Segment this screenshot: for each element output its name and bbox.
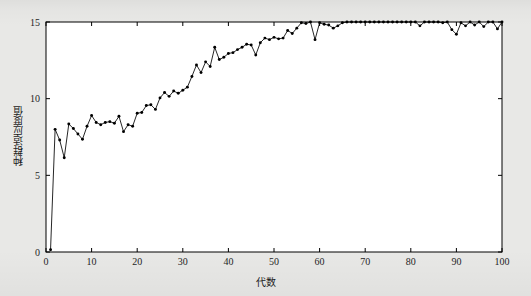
data-point [213,46,216,49]
data-point [428,21,431,24]
x-tick-label: 40 [223,256,233,267]
data-point [327,24,330,27]
data-point [464,24,467,27]
data-point [99,123,102,126]
data-point [318,21,321,24]
data-point [113,122,116,125]
x-tick-label: 100 [495,256,510,267]
data-point [368,21,371,24]
data-point [382,21,385,24]
data-point [222,56,225,59]
data-point [67,123,70,126]
data-point [177,92,180,95]
data-point [168,95,171,98]
data-point [491,21,494,24]
data-point [136,112,139,115]
data-point [209,65,212,68]
data-point [432,21,435,24]
data-point [76,132,79,135]
data-point [405,21,408,24]
data-point [460,21,463,24]
data-point [441,21,444,24]
data-point [437,21,440,24]
data-point [254,54,257,57]
x-axis-tick-labels: 0102030405060708090100 [44,256,510,267]
data-point [108,120,111,123]
data-point [341,21,344,24]
data-point [391,21,394,24]
data-point [72,127,75,130]
data-point [309,21,312,24]
x-tick-label: 30 [178,256,188,267]
x-tick-label: 90 [451,256,461,267]
data-point [355,21,358,24]
data-point [373,21,376,24]
data-point [409,21,412,24]
data-point [218,58,221,61]
x-tick-label: 60 [315,256,325,267]
data-point [469,21,472,24]
data-point [204,60,207,63]
data-point [236,48,239,51]
y-tick-label: 0 [35,247,40,258]
data-point [336,24,339,27]
y-axis-label: 种群适应度值 [10,78,28,193]
data-point [291,32,294,35]
x-tick-label: 20 [132,256,142,267]
figure-canvas: 0102030405060708090100 051015 种群适应度值 代数 [0,0,531,296]
data-point [245,43,248,46]
data-point [104,121,107,124]
data-point [140,111,143,114]
data-point [314,38,317,41]
y-axis-label-text: 种群适应度值 [14,106,24,166]
data-point [455,33,458,36]
data-point [122,130,125,133]
x-tick-label: 0 [44,256,49,267]
data-point [131,125,134,128]
data-point [478,21,481,24]
data-point [304,22,307,25]
data-point [90,114,93,117]
data-point [127,123,130,126]
data-point [250,44,253,47]
data-point [241,46,244,49]
data-point [364,21,367,24]
data-point [86,125,89,128]
data-point [263,37,266,40]
data-point [163,91,166,94]
data-point [259,41,262,44]
data-point [286,29,289,32]
data-point [181,89,184,92]
data-point [418,24,421,27]
data-point [81,138,84,141]
data-point [154,108,157,111]
data-point [159,96,162,99]
y-tick-label: 5 [35,170,40,181]
data-point [195,63,198,66]
data-point [149,103,152,106]
x-axis-label-text: 代数 [256,277,276,288]
data-point [295,27,298,30]
data-point [346,21,349,24]
data-point [95,121,98,124]
data-point [423,21,426,24]
data-point [282,37,285,40]
data-point [227,52,230,55]
data-point [446,21,449,24]
data-point [396,21,399,24]
data-point [118,115,121,118]
data-point [482,25,485,28]
data-point [200,71,203,74]
data-point [501,21,504,24]
data-point [268,38,271,41]
data-point [186,86,189,89]
x-tick-label: 10 [87,256,97,267]
data-point [63,156,66,159]
x-tick-label: 80 [406,256,416,267]
y-tick-label: 15 [30,17,40,28]
data-point [49,248,52,251]
data-point [487,21,490,24]
data-point [414,21,417,24]
data-point [145,104,148,107]
y-axis-tick-labels: 051015 [30,17,40,258]
